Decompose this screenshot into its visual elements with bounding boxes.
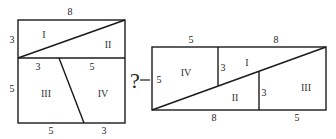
left-mid-left-label: 3 xyxy=(36,61,41,72)
right-rectangle: 5 8 5 3 3 8 5 IV I II III xyxy=(152,34,326,123)
right-region-III: III xyxy=(301,82,311,93)
right-diagonal xyxy=(152,47,326,110)
right-top-left-label: 5 xyxy=(189,34,194,45)
right-inner-vertical-1-label: 3 xyxy=(221,62,226,73)
left-square: 8 3 5 3 5 5 3 I II III IV xyxy=(10,6,126,136)
left-bottom-left-label: 5 xyxy=(49,125,54,136)
left-region-III: III xyxy=(41,88,51,99)
dissection-diagram: 8 3 5 3 5 5 3 I II III IV ? 5 8 5 3 3 8 … xyxy=(0,0,336,139)
left-side-bottom-label: 5 xyxy=(10,83,15,94)
left-bottom-right-label: 3 xyxy=(102,125,107,136)
right-region-I: I xyxy=(245,57,248,68)
question-connector: ? xyxy=(130,68,150,93)
right-bottom-right-label: 5 xyxy=(295,112,300,123)
left-slanted-divider xyxy=(59,58,84,123)
left-region-II: II xyxy=(105,39,112,50)
right-region-II: II xyxy=(232,92,239,103)
left-mid-right-label: 5 xyxy=(90,61,95,72)
left-region-I: I xyxy=(42,29,45,40)
left-side-top-label: 3 xyxy=(10,34,15,45)
right-bottom-left-label: 8 xyxy=(212,112,217,123)
right-top-right-label: 8 xyxy=(274,34,279,45)
left-region-IV: IV xyxy=(98,88,109,99)
question-mark: ? xyxy=(130,68,140,93)
left-square-outline xyxy=(18,20,125,123)
right-inner-vertical-2-label: 3 xyxy=(262,87,267,98)
left-top-label: 8 xyxy=(68,6,73,17)
right-region-IV: IV xyxy=(181,67,192,78)
right-left-label: 5 xyxy=(157,74,162,85)
